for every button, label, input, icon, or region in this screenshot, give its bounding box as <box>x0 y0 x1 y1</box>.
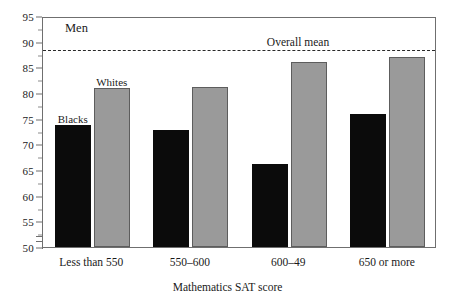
whites-annot: Whites <box>96 76 127 90</box>
y-tick-label-50: 50 <box>23 242 34 254</box>
y-tick-label-65: 65 <box>23 165 34 177</box>
x-category-label-3: 650 or more <box>359 256 415 268</box>
y-tick-label-85: 85 <box>23 62 34 74</box>
x-category-label-2: 600–49 <box>271 256 306 268</box>
y-tick-label-75: 75 <box>23 114 34 126</box>
x-axis-title: Mathematics SAT score <box>0 281 455 293</box>
bar-whites-group-2 <box>291 62 327 247</box>
overall-mean-line <box>43 50 435 51</box>
y-tick-label-60: 60 <box>23 191 34 203</box>
bar-blacks-group-1 <box>153 130 189 247</box>
bar-blacks-group-0 <box>55 125 91 247</box>
y-tick-label-95: 95 <box>23 11 34 23</box>
y-tick-label-80: 80 <box>23 88 34 100</box>
y-tick-label-55: 55 <box>23 216 34 228</box>
bar-whites-group-1 <box>192 87 228 247</box>
y-axis: 50556065707580859095 <box>0 0 42 299</box>
bars-layer: Overall meanBlacksWhites <box>43 18 435 247</box>
chart-figure: 50556065707580859095 Overall meanBlacksW… <box>0 0 455 299</box>
overall-mean-label: Overall mean <box>267 36 329 50</box>
plot-area: Overall meanBlacksWhites Men <box>42 17 436 248</box>
bar-blacks-group-3 <box>350 114 386 247</box>
panel-label-men: Men <box>65 21 88 36</box>
bar-blacks-group-2 <box>252 164 288 247</box>
blacks-annot: Blacks <box>58 113 88 127</box>
y-tick-label-70: 70 <box>23 139 34 151</box>
bar-whites-group-3 <box>389 57 425 247</box>
x-category-label-0: Less than 550 <box>59 256 123 268</box>
x-category-label-1: 550–600 <box>170 256 210 268</box>
y-tick-label-90: 90 <box>23 37 34 49</box>
bar-whites-group-0 <box>94 88 130 247</box>
